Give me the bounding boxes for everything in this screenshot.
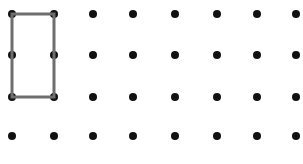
- grid-dot[interactable]: [213, 93, 221, 101]
- grid-dot[interactable]: [89, 132, 97, 140]
- grid-dot[interactable]: [171, 93, 179, 101]
- grid-dot[interactable]: [50, 10, 58, 18]
- grid-dot[interactable]: [129, 132, 137, 140]
- grid-dot[interactable]: [8, 132, 16, 140]
- shape-group[interactable]: [12, 14, 54, 97]
- grid-dot[interactable]: [292, 132, 300, 140]
- grid-dot[interactable]: [253, 10, 261, 18]
- grid-dot[interactable]: [8, 93, 16, 101]
- grid-dot[interactable]: [8, 10, 16, 18]
- grid-dot[interactable]: [253, 51, 261, 59]
- grid-dot[interactable]: [50, 132, 58, 140]
- grid-dot[interactable]: [50, 93, 58, 101]
- grid-dot[interactable]: [171, 10, 179, 18]
- grid-dot[interactable]: [8, 51, 16, 59]
- grid-dot[interactable]: [253, 93, 261, 101]
- grid-dot[interactable]: [129, 93, 137, 101]
- grid-dot[interactable]: [213, 51, 221, 59]
- grid-dot[interactable]: [292, 10, 300, 18]
- grid-dot[interactable]: [129, 10, 137, 18]
- grid-dot[interactable]: [213, 132, 221, 140]
- grid-dot[interactable]: [292, 93, 300, 101]
- grid-dot[interactable]: [213, 10, 221, 18]
- grid-dot[interactable]: [171, 51, 179, 59]
- rectangle-shape[interactable]: [12, 14, 54, 97]
- grid-dot[interactable]: [253, 132, 261, 140]
- geoboard-canvas: [0, 0, 303, 164]
- grid-dot[interactable]: [171, 132, 179, 140]
- grid-dot[interactable]: [129, 51, 137, 59]
- dot-grid[interactable]: [0, 0, 303, 164]
- grid-dot[interactable]: [89, 93, 97, 101]
- grid-dot[interactable]: [89, 51, 97, 59]
- grid-dot[interactable]: [292, 51, 300, 59]
- grid-dot[interactable]: [50, 51, 58, 59]
- grid-dot[interactable]: [89, 10, 97, 18]
